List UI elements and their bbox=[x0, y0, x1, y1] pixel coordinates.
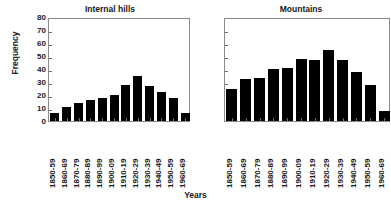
y-tick-label: 30 bbox=[37, 79, 46, 87]
x-tick-label: 1960-69 bbox=[179, 159, 187, 188]
x-tick-label: 1880-89 bbox=[267, 159, 275, 188]
plot-area-mountains bbox=[224, 18, 390, 122]
x-tick-label: 1930-39 bbox=[337, 159, 345, 188]
x-tick-mark bbox=[343, 118, 344, 121]
x-tick-label: 1870-79 bbox=[73, 159, 81, 188]
x-tick-label: 1910-19 bbox=[309, 159, 317, 188]
y-tick-label: 20 bbox=[37, 92, 46, 100]
panel-title-internal-hills: Internal hills bbox=[30, 4, 190, 14]
y-tick-mark bbox=[49, 71, 52, 72]
y-tick-label: 70 bbox=[37, 27, 46, 35]
x-tick-mark bbox=[67, 118, 68, 121]
bar bbox=[350, 72, 363, 121]
x-tick-mark bbox=[232, 118, 233, 121]
x-tick-label: 1920-29 bbox=[132, 159, 140, 188]
y-tick-mark bbox=[225, 71, 228, 72]
y-axis-title: Frequency bbox=[10, 13, 20, 93]
bar bbox=[144, 86, 155, 121]
panel-title-mountains: Mountains bbox=[212, 4, 390, 14]
x-tick-mark bbox=[114, 118, 115, 121]
x-tick-mark bbox=[185, 118, 186, 121]
x-tick-label: 1950-59 bbox=[364, 159, 372, 188]
bar bbox=[281, 68, 294, 121]
x-tick-mark bbox=[55, 118, 56, 121]
x-tick-mark bbox=[126, 118, 127, 121]
y-tick-mark bbox=[225, 45, 228, 46]
x-tick-mark bbox=[384, 118, 385, 121]
x-tick-label: 1920-29 bbox=[323, 159, 331, 188]
x-tick-label: 1890-99 bbox=[96, 159, 104, 188]
x-tick-label: 1900-09 bbox=[108, 159, 116, 188]
bar bbox=[253, 78, 266, 121]
x-tick-label: 1940-49 bbox=[155, 159, 163, 188]
y-tick-mark bbox=[49, 97, 52, 98]
y-tick-label: 80 bbox=[37, 14, 46, 22]
y-tick-mark bbox=[49, 84, 52, 85]
x-tick-mark bbox=[301, 118, 302, 121]
x-tick-mark bbox=[79, 118, 80, 121]
x-axis-labels-internal-hills: 1850-591860-691870-791880-891890-991900-… bbox=[48, 124, 190, 188]
bar bbox=[336, 60, 349, 121]
x-tick-mark bbox=[315, 118, 316, 121]
bar bbox=[364, 85, 377, 121]
bar bbox=[239, 79, 252, 121]
x-tick-label: 1870-79 bbox=[254, 159, 262, 188]
x-tick-mark bbox=[273, 118, 274, 121]
bar bbox=[308, 60, 321, 121]
x-tick-label: 1950-59 bbox=[167, 159, 175, 188]
bar bbox=[120, 85, 131, 121]
x-tick-mark bbox=[161, 118, 162, 121]
bar bbox=[225, 89, 238, 122]
x-tick-label: 1930-39 bbox=[144, 159, 152, 188]
x-tick-label: 1850-59 bbox=[49, 159, 57, 188]
x-tick-label: 1960-69 bbox=[378, 159, 386, 188]
y-tick-mark bbox=[225, 32, 228, 33]
y-tick-mark bbox=[225, 58, 228, 59]
x-tick-label: 1900-09 bbox=[295, 159, 303, 188]
x-tick-mark bbox=[329, 118, 330, 121]
bars-mountains bbox=[225, 19, 389, 121]
x-axis-labels-mountains: 1850-591860-691870-791880-891890-991900-… bbox=[224, 124, 390, 188]
y-tick-label: 40 bbox=[37, 66, 46, 74]
y-tick-label: 50 bbox=[37, 53, 46, 61]
x-tick-label: 1890-99 bbox=[281, 159, 289, 188]
y-axis-ticks-internal-hills: 01020304050607080 bbox=[30, 18, 48, 122]
x-tick-mark bbox=[287, 118, 288, 121]
x-tick-mark bbox=[173, 118, 174, 121]
y-tick-mark bbox=[49, 110, 52, 111]
x-tick-mark bbox=[246, 118, 247, 121]
x-tick-label: 1850-59 bbox=[226, 159, 234, 188]
y-tick-mark bbox=[225, 84, 228, 85]
bar bbox=[267, 69, 280, 121]
x-tick-label: 1860-69 bbox=[240, 159, 248, 188]
y-tick-mark bbox=[49, 45, 52, 46]
x-tick-mark bbox=[356, 118, 357, 121]
plot-area-internal-hills bbox=[48, 18, 190, 122]
x-tick-label: 1910-19 bbox=[120, 159, 128, 188]
x-tick-label: 1860-69 bbox=[61, 159, 69, 188]
x-tick-mark bbox=[90, 118, 91, 121]
bar bbox=[156, 92, 167, 121]
x-tick-mark bbox=[138, 118, 139, 121]
y-axis-ticks-mountains bbox=[212, 18, 224, 122]
bars-internal-hills bbox=[49, 19, 189, 121]
x-tick-mark bbox=[260, 118, 261, 121]
figure-histogram-panels: Frequency Internal hills 010203040506070… bbox=[0, 0, 391, 211]
x-tick-label: 1940-49 bbox=[350, 159, 358, 188]
bar bbox=[132, 76, 143, 122]
x-tick-label: 1880-89 bbox=[84, 159, 92, 188]
bar bbox=[295, 59, 308, 121]
y-tick-label: 0 bbox=[42, 118, 46, 126]
y-tick-mark bbox=[49, 32, 52, 33]
x-axis-title: Years bbox=[0, 190, 391, 200]
bar bbox=[322, 50, 335, 122]
x-tick-mark bbox=[150, 118, 151, 121]
y-tick-mark bbox=[49, 58, 52, 59]
x-tick-mark bbox=[102, 118, 103, 121]
y-tick-label: 10 bbox=[37, 105, 46, 113]
x-tick-mark bbox=[370, 118, 371, 121]
y-tick-label: 60 bbox=[37, 40, 46, 48]
